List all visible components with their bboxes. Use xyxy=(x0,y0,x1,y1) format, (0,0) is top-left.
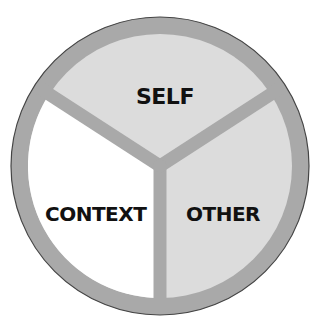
segment-label-self: SELF xyxy=(136,86,194,108)
segment-label-other: OTHER xyxy=(186,204,260,224)
three-segment-circle-diagram xyxy=(0,0,318,329)
divider-junction xyxy=(154,160,167,173)
segment-label-context: CONTEXT xyxy=(45,204,146,224)
